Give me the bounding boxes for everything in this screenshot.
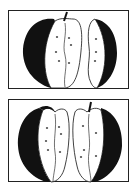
top-panel: apple-halves-top	[8, 10, 129, 89]
bottom-panel: apple-halves-bottom	[8, 99, 129, 182]
apple-halves-illustration	[9, 100, 130, 183]
apple-halves-illustration	[9, 11, 130, 90]
